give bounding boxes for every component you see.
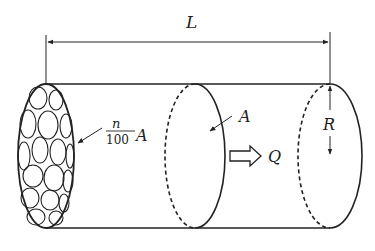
porous-area-numerator: n xyxy=(112,116,120,131)
cylinder-body xyxy=(46,84,330,228)
porous-cylinder-diagram: L xyxy=(0,0,375,251)
porous-area-denominator: 100 xyxy=(106,133,129,147)
area-symbol: A xyxy=(237,107,251,126)
length-label: L xyxy=(185,12,197,32)
porous-end-face xyxy=(18,84,74,228)
radius-dimension: R xyxy=(322,86,335,154)
middle-cross-section xyxy=(165,84,225,228)
porous-area-pointer xyxy=(78,128,102,143)
radius-label: R xyxy=(322,115,335,134)
area-label: A xyxy=(210,107,251,131)
porous-area-label: n 100 A xyxy=(78,116,148,147)
length-dimension: L xyxy=(46,12,330,84)
porous-area-symbol: A xyxy=(134,126,148,145)
flow-indicator: Q xyxy=(230,146,281,166)
flow-label: Q xyxy=(268,147,281,166)
hollow-flow-arrow-icon xyxy=(230,146,261,166)
